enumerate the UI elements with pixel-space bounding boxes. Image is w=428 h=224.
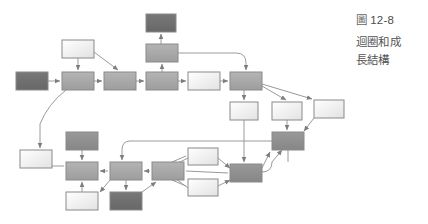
- node-bottom-dark-lower[interactable]: [110, 192, 142, 210]
- figure-description-line-1: 迴圈和成: [356, 33, 418, 51]
- node-right-mid[interactable]: [272, 132, 304, 150]
- edge-n22-n23: [218, 180, 230, 186]
- edge-n6-n9: [178, 53, 246, 70]
- node-bottom-dark-upper[interactable]: [66, 132, 98, 150]
- node-bottom-left-white[interactable]: [20, 150, 52, 168]
- node-layer: [16, 14, 344, 210]
- node-bottom-row-second[interactable]: [66, 162, 98, 180]
- edge-n9-n12: [262, 84, 312, 99]
- node-row1-fourth[interactable]: [146, 72, 178, 90]
- node-row1-light[interactable]: [188, 72, 220, 90]
- figure-number: 12-8: [370, 14, 394, 26]
- node-far-right-light[interactable]: [314, 100, 344, 118]
- node-right-light-a[interactable]: [272, 102, 302, 120]
- figure-title: 圖12-8: [356, 12, 426, 29]
- diagram-page: 圖12-8 迴圈和成 長結構: [0, 0, 428, 224]
- edge-n2-n4: [94, 52, 118, 70]
- node-below-hub-light[interactable]: [230, 102, 258, 120]
- node-row1-third[interactable]: [104, 72, 136, 90]
- edge-n21-n23: [218, 158, 230, 168]
- edge-n20-n21: [172, 156, 186, 162]
- edge-n12-n13: [304, 118, 314, 131]
- figure-label: 圖: [356, 12, 367, 29]
- node-bottom-center[interactable]: [110, 162, 142, 180]
- node-start-left[interactable]: [16, 72, 48, 90]
- node-bottom-hub[interactable]: [230, 164, 262, 182]
- node-upper-mid[interactable]: [146, 44, 178, 62]
- node-top-dark[interactable]: [146, 14, 176, 32]
- figure-description-line-2: 長結構: [356, 51, 418, 69]
- edge-n23-n13b: [262, 152, 270, 168]
- figure-description: 迴圈和成 長結構: [356, 33, 418, 69]
- edge-n18-n17: [100, 180, 110, 192]
- node-bottom-light-lower[interactable]: [66, 192, 98, 210]
- node-hub-right[interactable]: [230, 72, 262, 90]
- edge-n3-n14: [40, 90, 66, 148]
- edge-n23-n20: [186, 171, 228, 173]
- edge-n19-n20: [142, 182, 156, 192]
- figure-caption: 圖12-8 迴圈和成 長結構: [356, 12, 426, 69]
- node-bottom-right-of-center[interactable]: [152, 162, 184, 180]
- node-bottom-light-upper-r[interactable]: [188, 148, 218, 165]
- node-bottom-light-lower-r[interactable]: [188, 179, 218, 196]
- node-row1-second[interactable]: [62, 72, 94, 90]
- node-upper-light-top[interactable]: [62, 40, 94, 58]
